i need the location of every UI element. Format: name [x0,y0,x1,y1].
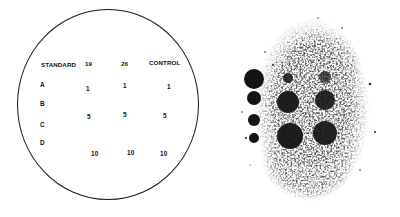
standard-spot-d [249,133,259,143]
header-standard: STANDARD [41,62,76,68]
value-r2-c2: 5 [123,112,127,118]
value-r1-c2: 1 [123,83,127,89]
sample-spot-19-1 [283,73,293,83]
blot-photograph [220,0,400,217]
blot-image [220,0,400,217]
value-r2-c3: 5 [163,113,167,119]
row-label-d: D [40,140,45,146]
row-label-a: A [40,82,45,88]
plate-layout-diagram: STANDARD 19 26 CONTROL A B C D 1 1 1 5 5… [0,0,220,217]
value-r1-c3: 1 [167,84,171,90]
value-r2-c1: 5 [87,114,91,120]
sample-spot-26-5 [315,90,335,110]
standard-spot-c [248,114,260,126]
row-label-c: C [40,122,45,128]
standard-spot-b [247,91,261,105]
value-r3-c1: 10 [91,151,98,157]
header-control: CONTROL [149,60,180,66]
sample-spot-19-5 [277,91,299,113]
header-col-19: 19 [85,61,92,67]
value-r1-c1: 1 [86,86,90,92]
sample-spot-26-1 [319,71,331,83]
sample-spot-26-10 [313,121,337,145]
value-r3-c3: 10 [160,151,167,157]
standard-spot-a [244,69,264,89]
value-r3-c2: 10 [127,150,134,156]
sample-spot-19-10 [277,123,303,149]
row-label-b: B [40,101,45,107]
header-col-26: 26 [121,61,128,67]
